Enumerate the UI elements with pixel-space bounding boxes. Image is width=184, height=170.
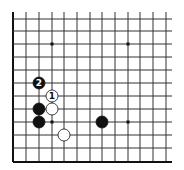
- star-point: [127, 43, 130, 46]
- move-number-label: 2: [36, 78, 42, 88]
- go-board: 21: [0, 0, 184, 170]
- black-stone-icon: [96, 116, 108, 128]
- white-stone-icon: [46, 103, 58, 115]
- black-stone: [96, 116, 108, 128]
- black-stone: [33, 116, 45, 128]
- black-stone-icon: [33, 116, 45, 128]
- black-stone-2: 2: [33, 77, 45, 89]
- star-point: [51, 121, 54, 124]
- go-board-svg: 21: [0, 0, 184, 170]
- move-number-label: 1: [49, 91, 55, 101]
- star-point: [127, 121, 130, 124]
- white-stone-icon: [58, 129, 70, 141]
- star-point: [51, 43, 54, 46]
- black-stone-icon: [33, 103, 45, 115]
- white-stone-1: 1: [46, 90, 58, 102]
- black-stone: [33, 103, 45, 115]
- white-stone: [46, 103, 58, 115]
- white-stone: [58, 129, 70, 141]
